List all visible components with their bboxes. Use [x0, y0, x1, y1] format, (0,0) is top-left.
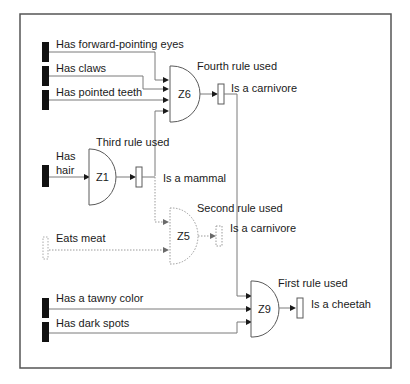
output-label-z5: Is a carnivore: [230, 222, 296, 234]
input-label-claws: Has claws: [56, 62, 107, 74]
input-label-hair-line1: Has: [56, 150, 76, 162]
rule-label-first: First rule used: [278, 277, 348, 289]
input-label-forward-eyes: Has forward-pointing eyes: [56, 38, 184, 50]
input-indicator-pointed-teeth: [42, 90, 49, 110]
input-indicator-claws: [42, 66, 49, 86]
gate-label-z9: Z9: [258, 303, 271, 315]
rule-network-diagram: Has forward-pointing eyes Has claws Has …: [0, 0, 410, 384]
input-label-tawny: Has a tawny color: [56, 292, 144, 304]
output-indicator-z1: [136, 167, 142, 187]
output-label-z1: Is a mammal: [163, 172, 226, 184]
input-indicator-hair: [42, 165, 49, 187]
input-indicator-tawny: [42, 298, 49, 318]
input-indicator-dark-spots: [42, 322, 49, 342]
input-label-pointed-teeth: Has pointed teeth: [56, 86, 142, 98]
rule-label-fourth: Fourth rule used: [197, 60, 277, 72]
input-indicator-forward-eyes: [42, 42, 49, 62]
output-indicator-z9: [297, 298, 303, 318]
output-indicator-z6: [218, 84, 224, 104]
input-label-dark-spots: Has dark spots: [56, 317, 130, 329]
output-indicator-z5: [216, 226, 222, 246]
input-label-hair-line2: hair: [56, 164, 75, 176]
rule-label-second: Second rule used: [197, 202, 283, 214]
input-indicator-eats-meat: [43, 237, 48, 259]
input-label-eats-meat: Eats meat: [56, 232, 106, 244]
output-label-z6: Is a carnivore: [231, 82, 297, 94]
output-label-z9: Is a cheetah: [311, 298, 371, 310]
rule-label-third: Third rule used: [96, 136, 169, 148]
gate-label-z5: Z5: [177, 230, 190, 242]
gate-label-z6: Z6: [178, 88, 191, 100]
gate-label-z1: Z1: [96, 171, 109, 183]
